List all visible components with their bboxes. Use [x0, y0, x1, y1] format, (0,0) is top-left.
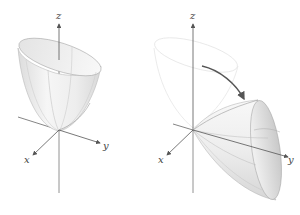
- right-y-label: y: [287, 154, 294, 165]
- left-y-axis: [59, 130, 100, 143]
- right-x-axis: [167, 130, 193, 155]
- left-x-axis: [33, 130, 59, 155]
- right-x-label: x: [158, 154, 164, 165]
- left-z-label: z: [55, 10, 62, 21]
- left-x-label: x: [24, 154, 30, 165]
- right-z-label: z: [189, 10, 196, 21]
- right-panel: z y x: [151, 10, 294, 201]
- left-y-label: y: [102, 140, 109, 151]
- figure: z y x z y x: [0, 0, 300, 215]
- left-panel: z y x: [15, 10, 109, 193]
